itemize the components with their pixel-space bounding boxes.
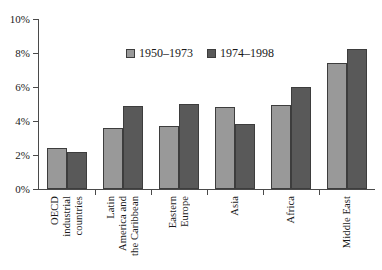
x-axis-tick-mark (151, 190, 152, 195)
y-axis-tick-label: 4% (15, 116, 30, 127)
x-axis-category-label: EasternEurope (151, 196, 207, 270)
bar-chart: 0%2%4%6%8%10% 1950–19731974–1998 OECDind… (0, 0, 382, 270)
x-axis-category-label: LatinAmerica andthe Caribbean (95, 196, 151, 270)
x-axis-category-label-line: the Caribbean (129, 196, 141, 256)
bar-group (103, 19, 143, 189)
x-axis-category-label-line: OECD (49, 196, 61, 225)
x-axis-category-label-line: Latin (105, 196, 117, 219)
x-axis-category-label: Asia (207, 196, 263, 270)
bar-group (215, 19, 255, 189)
bar[interactable] (291, 87, 311, 189)
y-axis-tick-label: 10% (10, 14, 30, 25)
y-axis-tick-label: 2% (15, 150, 30, 161)
bar-group (47, 19, 87, 189)
x-axis-category-label-line: Europe (179, 196, 191, 227)
x-axis-category-label-line: countries (73, 196, 85, 235)
x-axis-category-label-line: Middle East (341, 196, 353, 248)
bar[interactable] (235, 124, 255, 189)
x-axis-category-label-line: Asia (229, 196, 241, 216)
x-axis-tick-mark (95, 190, 96, 195)
x-axis-category-label: Middle East (319, 196, 375, 270)
bar[interactable] (159, 126, 179, 189)
y-axis-tick-mark (33, 53, 38, 54)
bar-group (159, 19, 199, 189)
y-axis-tick-label: 6% (15, 82, 30, 93)
bar[interactable] (215, 107, 235, 189)
y-axis-tick-mark (33, 155, 38, 156)
chart-legend: 1950–19731974–1998 (126, 47, 274, 59)
y-axis-tick-mark (33, 189, 38, 190)
y-axis-tick-mark (33, 121, 38, 122)
x-axis-tick-mark (207, 190, 208, 195)
y-axis-tick-mark (33, 19, 38, 20)
bar[interactable] (347, 49, 367, 189)
legend-entry[interactable]: 1974–1998 (207, 47, 274, 59)
bar[interactable] (47, 148, 67, 189)
x-axis-category-labels: OECDindustrialcountriesLatinAmerica andt… (39, 196, 375, 270)
x-axis-tick-mark (263, 190, 264, 195)
bar[interactable] (123, 106, 143, 189)
y-axis-tick-label: 0% (15, 184, 30, 195)
bar[interactable] (271, 105, 291, 189)
legend-label: 1974–1998 (220, 47, 274, 59)
bar-group (271, 19, 311, 189)
x-axis-tick-mark (319, 190, 320, 195)
bar-group (327, 19, 367, 189)
bar[interactable] (67, 152, 87, 189)
x-axis-category-label: OECDindustrialcountries (39, 196, 95, 270)
y-axis-tick-mark (33, 87, 38, 88)
legend-label: 1950–1973 (139, 47, 193, 59)
y-axis-tick-labels: 0%2%4%6%8%10% (0, 0, 34, 195)
x-axis-category-label-line: Eastern (167, 196, 179, 228)
legend-entry[interactable]: 1950–1973 (126, 47, 193, 59)
x-axis-category-label-line: Africa (285, 196, 297, 223)
plot-area (39, 19, 375, 189)
legend-swatch (126, 49, 135, 58)
bar[interactable] (179, 104, 199, 189)
y-axis-tick-label: 8% (15, 48, 30, 59)
bar[interactable] (327, 63, 347, 189)
x-axis-category-label-line: industrial (61, 196, 73, 237)
bar[interactable] (103, 128, 123, 189)
x-axis-category-label: Africa (263, 196, 319, 270)
legend-swatch (207, 49, 216, 58)
x-axis-category-label-line: America and (117, 196, 129, 251)
